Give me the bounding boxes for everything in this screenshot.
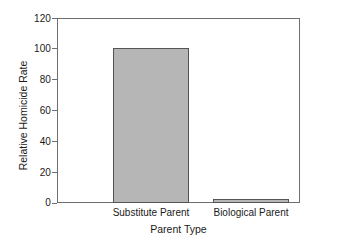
y-tick-label: 120 [0, 14, 51, 24]
x-tick-label-biological-parent: Biological Parent [191, 207, 311, 218]
bar-substitute-parent [113, 48, 189, 203]
y-tick-mark [52, 141, 57, 142]
x-axis-title: Parent Type [57, 224, 300, 235]
y-tick-mark [52, 48, 57, 49]
y-tick-mark [52, 79, 57, 80]
bar-biological-parent [213, 199, 289, 203]
y-tick-label: 0 [0, 198, 51, 208]
y-tick-mark [52, 172, 57, 173]
y-tick-mark [52, 18, 57, 19]
bar-chart: 120 100 80 60 40 20 0 Relative Homicide … [0, 0, 350, 250]
y-axis-title: Relative Homicide Rate [18, 46, 29, 186]
y-tick-mark [52, 110, 57, 111]
y-tick-mark [52, 203, 57, 204]
